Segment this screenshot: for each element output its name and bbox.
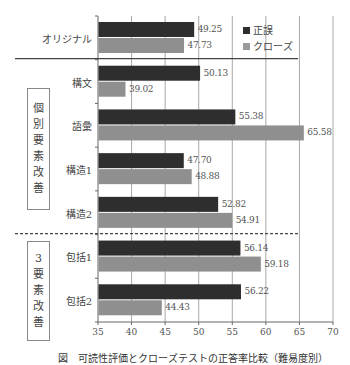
value-label: 49.25 <box>198 24 222 34</box>
category-label: 構造1 <box>12 162 92 177</box>
value-label: 47.70 <box>187 155 211 165</box>
x-tick-label: 65 <box>289 327 309 337</box>
bar-seigo <box>99 197 219 212</box>
category-label: 包括2 <box>12 293 92 308</box>
value-label: 48.88 <box>195 171 219 181</box>
group-char: 善 <box>33 315 44 331</box>
group-label-individual: 個別要素改善 <box>27 88 50 210</box>
bar-cloze <box>99 213 233 228</box>
x-tick-label: 60 <box>256 327 276 337</box>
value-label: 56.22 <box>244 286 268 296</box>
x-tick-label: 50 <box>189 327 209 337</box>
legend-item-seigo: 正誤 <box>243 22 293 38</box>
x-tick-label: 40 <box>122 327 142 337</box>
bar-seigo <box>99 284 241 299</box>
figure-caption: 図 可読性評価とクローズテストの正答率比較（難易度別） <box>58 350 328 365</box>
bar-cloze <box>99 125 304 140</box>
legend-swatch-gray <box>243 43 250 50</box>
bar-cloze <box>99 257 261 272</box>
value-label: 44.43 <box>165 302 189 312</box>
category-label: 構造2 <box>12 206 92 221</box>
category-label: 包括1 <box>12 249 92 264</box>
value-label: 59.18 <box>264 259 288 269</box>
bar-seigo <box>99 22 195 37</box>
group-char: 善 <box>33 181 44 197</box>
x-tick-label: 45 <box>155 327 175 337</box>
value-label: 65.58 <box>307 127 331 137</box>
group-char: 要 <box>33 267 44 283</box>
group-char: 要 <box>33 133 44 149</box>
bar-cloze <box>99 82 126 97</box>
x-tick-label: 55 <box>222 327 242 337</box>
bar-cloze <box>99 169 192 184</box>
value-label: 56.14 <box>244 243 268 253</box>
legend-label: クローズ <box>253 41 293 52</box>
value-label: 54.91 <box>236 215 260 225</box>
bar-seigo <box>99 153 184 168</box>
bar-seigo <box>99 109 236 124</box>
x-tick-label: 70 <box>323 327 343 337</box>
bar-cloze <box>99 300 162 315</box>
category-label: オリジナル <box>12 31 92 46</box>
bar-cloze <box>99 38 184 53</box>
legend-item-cloze: クローズ <box>243 38 293 54</box>
value-label: 47.73 <box>187 40 211 50</box>
group-char: 個 <box>33 101 44 117</box>
legend-swatch-dark <box>243 27 250 34</box>
category-label: 語彙 <box>12 118 92 133</box>
value-label: 50.13 <box>204 68 228 78</box>
legend: 正誤 クローズ <box>243 22 293 54</box>
value-label: 55.38 <box>239 111 263 121</box>
category-label: 構文 <box>12 75 92 90</box>
value-label: 39.02 <box>129 84 153 94</box>
legend-label: 正誤 <box>253 25 273 36</box>
value-label: 52.82 <box>222 199 246 209</box>
x-tick-label: 35 <box>88 327 108 337</box>
bar-seigo <box>99 241 241 256</box>
bar-seigo <box>99 66 201 81</box>
